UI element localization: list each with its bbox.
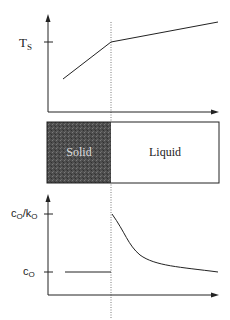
liquid-label: Liquid xyxy=(149,145,181,159)
temperature-plot: TS xyxy=(19,14,219,115)
c0-label: cO xyxy=(23,265,35,279)
phase-bar: Solid Liquid xyxy=(47,122,219,183)
temperature-curve xyxy=(63,22,218,79)
y-axis-arrow-icon xyxy=(46,194,51,202)
x-axis-arrow-icon xyxy=(211,293,219,298)
concentration-plot: cO/kO cO xyxy=(11,194,219,298)
c0-k0-label: cO/kO xyxy=(11,207,38,221)
y-axis-arrow-icon xyxy=(46,14,51,22)
solidification-diagram: TS Solid Liquid cO/kO cO xyxy=(0,0,230,320)
solid-label: Solid xyxy=(66,145,91,159)
x-axis-arrow-icon xyxy=(211,110,219,115)
ts-label: TS xyxy=(19,35,32,52)
liquid-concentration-curve xyxy=(112,214,218,272)
